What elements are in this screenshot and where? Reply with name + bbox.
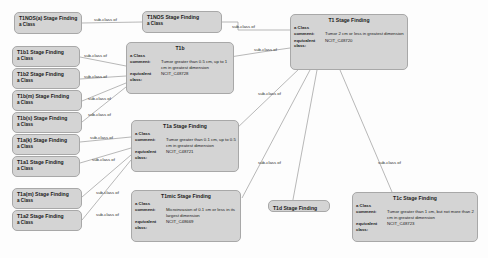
node-subtitle: a Class xyxy=(19,22,77,28)
node-t1nos[interactable]: T1NOS Stage Finding a Class xyxy=(142,11,222,33)
property-value-comment: Microinvasion of 0.1 cm or less in its l… xyxy=(163,207,240,219)
node-t1a-stage-finding[interactable]: T1a Stage Finding a Class comment: Tumor… xyxy=(131,120,239,172)
node-t1d[interactable]: T1d Stage Finding xyxy=(268,200,330,212)
node-subtitle: a Class xyxy=(17,144,75,150)
node-t1b1[interactable]: T1b1 Stage Finding a Class xyxy=(12,46,80,67)
node-t1b-m[interactable]: T1b(m) Stage Finding a Class xyxy=(12,90,82,111)
node-t1b[interactable]: T1b a Class comment: Tumor greater than … xyxy=(126,42,234,94)
property-key: equivalentclass: xyxy=(127,71,158,83)
edge-label-t1b-s: sub-class of xyxy=(88,112,111,117)
node-title: T1d Stage Finding xyxy=(273,203,325,212)
property-row-comment: comment: Tumor greater than 0.1 cm, up t… xyxy=(132,137,238,149)
edge-line xyxy=(235,68,300,130)
property-value-equivalent-class: NCIT_C48728 xyxy=(158,71,233,83)
node-title: T1b2 Stage Finding xyxy=(17,71,75,78)
node-title: T1mic Stage Finding xyxy=(132,191,240,200)
edge-label-t1a-k: sub-class of xyxy=(90,135,113,140)
node-t1a-k[interactable]: T1a(k) Stage Finding a Class xyxy=(12,134,80,155)
property-row-equivalent-class: equivalentclass: NCIT_C48721 xyxy=(132,149,238,161)
property-table: a Class comment: Tumor greater than 0.1 … xyxy=(132,131,238,161)
property-key: comment: xyxy=(127,59,158,71)
edge-label-t1b2: sub-class of xyxy=(84,74,107,79)
node-title: T1c Stage Finding xyxy=(353,193,477,202)
node-title: T1a1 Stage Finding xyxy=(17,159,75,166)
edge-line xyxy=(340,70,392,192)
node-title: T1b1 Stage Finding xyxy=(17,49,75,56)
node-t1b-s[interactable]: T1b(s) Stage Finding a Class xyxy=(12,112,82,133)
edge-label-t1nos-a: sub-class of xyxy=(94,17,117,22)
node-t1c-stage-finding[interactable]: T1c Stage Finding a Class comment: Tumor… xyxy=(352,192,478,242)
property-value-equivalent-class: NCIT_C48720 xyxy=(322,38,407,50)
property-row-equivalent-class: equivalentclass: NCIT_C48669 xyxy=(132,219,240,231)
property-row-comment: comment: Tumor greater than 1 cm, but no… xyxy=(353,209,477,221)
property-table: a Class comment: Tumor greater than 0.5 … xyxy=(127,53,233,83)
node-title: T1NOS Stage Finding xyxy=(147,14,217,21)
node-subtitle: a Class xyxy=(17,78,75,84)
property-table: a Class comment: Microinvasion of 0.1 cm… xyxy=(132,201,240,231)
node-subtitle: a Class xyxy=(17,56,75,62)
property-row-equivalent-class: equivalentclass: NCIT_C48728 xyxy=(127,71,233,83)
node-t1nos-a[interactable]: T1NOS(a) Stage Finding a Class xyxy=(14,12,82,34)
edge-label-t1nos: sub-class of xyxy=(232,24,255,29)
edge-label-t1b1: sub-class of xyxy=(84,53,107,58)
node-title: T1NOS(a) Stage Finding xyxy=(19,15,77,22)
edge-label-t1mic: sub-class of xyxy=(258,160,281,165)
node-subtitle: a Class xyxy=(17,122,77,128)
node-title: T1a(m) Stage Finding xyxy=(17,191,77,198)
edge-label-t1a2: sub-class of xyxy=(96,212,119,217)
node-title: T1a2 Stage Finding xyxy=(17,213,77,220)
edge-label-t1c: sub-class of xyxy=(378,160,401,165)
node-t1a2[interactable]: T1a2 Stage Finding a Class xyxy=(12,210,82,231)
property-row-comment: comment: Tumor greater than 0.5 cm, up t… xyxy=(127,59,233,71)
property-value-equivalent-class: NCIT_C48721 xyxy=(163,149,238,161)
edge-label-t1b: sub-class of xyxy=(254,47,277,52)
edge-label-t1a: sub-class of xyxy=(258,91,281,96)
node-subtitle: a Class xyxy=(147,21,217,27)
property-key: equivalentclass: xyxy=(132,149,163,161)
node-subtitle: a Class xyxy=(17,166,75,172)
property-key: comment: xyxy=(132,207,163,219)
edge-label-t1a-m: sub-class of xyxy=(96,190,119,195)
property-key: equivalentclass: xyxy=(291,38,322,50)
property-value-comment: Tumor greater than 0.5 cm, up to 1 cm in… xyxy=(158,59,233,71)
node-title: T1b(m) Stage Finding xyxy=(17,93,77,100)
edge-label-t1a1: sub-class of xyxy=(92,157,115,162)
property-value-equivalent-class: NCIT_C48669 xyxy=(163,219,240,231)
property-value-equivalent-class: NCIT_C48723 xyxy=(384,221,477,233)
edge-label-t1b-m: sub-class of xyxy=(88,96,111,101)
edge-line xyxy=(80,57,126,66)
property-table: a Class comment: Tumor 2 cm or less in g… xyxy=(291,25,407,50)
property-key: comment: xyxy=(132,137,163,149)
edge-line xyxy=(242,70,310,198)
property-table: a Class comment: Tumor greater than 1 cm… xyxy=(353,203,477,233)
edge-line xyxy=(82,22,142,23)
node-subtitle: a Class xyxy=(17,220,77,226)
property-row-equivalent-class: equivalentclass: NCIT_C48723 xyxy=(353,221,477,233)
node-t1mic-stage-finding[interactable]: T1mic Stage Finding a Class comment: Mic… xyxy=(131,190,241,242)
node-t1b2[interactable]: T1b2 Stage Finding a Class xyxy=(12,68,80,89)
node-t1a1[interactable]: T1a1 Stage Finding a Class xyxy=(12,156,80,177)
edge-line xyxy=(292,70,317,205)
property-row-comment: comment: Microinvasion of 0.1 cm or less… xyxy=(132,207,240,219)
node-subtitle: a Class xyxy=(17,198,77,204)
property-key: comment: xyxy=(353,209,384,221)
property-key: equivalentclass: xyxy=(353,221,384,233)
node-title: T1 Stage Finding xyxy=(291,15,407,24)
diagram-canvas: T1NOS(a) Stage Finding a Class T1NOS Sta… xyxy=(0,0,488,258)
node-subtitle: a Class xyxy=(17,100,77,106)
property-key: equivalentclass: xyxy=(132,219,163,231)
node-t1a-m[interactable]: T1a(m) Stage Finding a Class xyxy=(12,188,82,209)
node-title: T1a Stage Finding xyxy=(132,121,238,130)
node-title: T1b(s) Stage Finding xyxy=(17,115,77,122)
node-title: T1a(k) Stage Finding xyxy=(17,137,75,144)
property-row-equivalent-class: equivalentclass: NCIT_C48720 xyxy=(291,38,407,50)
property-value-comment: Tumor greater than 1 cm, but not more th… xyxy=(384,209,477,221)
property-value-comment: Tumor greater than 0.1 cm, up to 0.5 cm … xyxy=(163,137,238,149)
node-title: T1b xyxy=(127,43,233,52)
node-t1-stage-finding[interactable]: T1 Stage Finding a Class comment: Tumor … xyxy=(290,14,408,70)
